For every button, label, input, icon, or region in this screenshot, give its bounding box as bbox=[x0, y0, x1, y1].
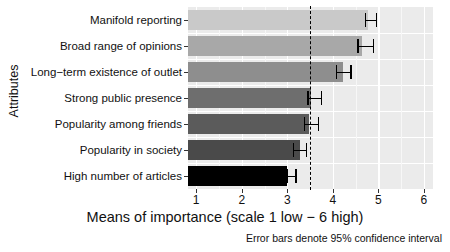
y-axis-label: Popularity in society bbox=[80, 137, 182, 163]
error-bar-cap bbox=[295, 169, 297, 183]
error-bar-cap bbox=[286, 169, 288, 183]
x-axis-tick-labels: 123456 bbox=[188, 193, 433, 209]
bar-chart: Attributes Manifold reportingBroad range… bbox=[0, 0, 450, 252]
error-bar-cap bbox=[365, 13, 367, 27]
bar bbox=[188, 88, 311, 108]
error-bar-cap bbox=[373, 39, 375, 53]
bar bbox=[188, 10, 368, 30]
plot-panel bbox=[188, 7, 433, 189]
x-axis-tick-label: 1 bbox=[184, 193, 208, 207]
chart-footnote: Error bars denote 95% confidence interva… bbox=[246, 232, 442, 244]
bar bbox=[188, 114, 309, 134]
x-axis-tick-label: 5 bbox=[366, 193, 390, 207]
reference-line bbox=[310, 6, 311, 190]
y-axis-category-labels: Manifold reportingBroad range of opinion… bbox=[18, 7, 182, 189]
error-bar-cap bbox=[376, 13, 378, 27]
bar bbox=[188, 140, 300, 160]
error-bar bbox=[357, 46, 374, 48]
y-axis-label: Strong public presence bbox=[64, 85, 182, 111]
bar bbox=[188, 166, 287, 186]
y-axis-label: Broad range of opinions bbox=[60, 33, 182, 59]
y-axis-label: Manifold reporting bbox=[90, 7, 182, 33]
error-bar-cap bbox=[318, 117, 320, 131]
x-axis-tick-label: 6 bbox=[412, 193, 436, 207]
error-bar-cap bbox=[357, 39, 359, 53]
error-bar-cap bbox=[293, 143, 295, 157]
x-axis-title: Means of importance (scale 1 low − 6 hig… bbox=[0, 209, 450, 225]
error-bar-cap bbox=[336, 65, 338, 79]
y-axis-label: Long−term existence of outlet bbox=[31, 59, 182, 85]
error-bar-cap bbox=[321, 91, 323, 105]
y-axis-label: Popularity among friends bbox=[55, 111, 182, 137]
x-axis-tick-label: 4 bbox=[321, 193, 345, 207]
bar bbox=[188, 62, 343, 82]
x-axis-tick-label: 2 bbox=[230, 193, 254, 207]
error-bar-cap bbox=[350, 65, 352, 79]
error-bar-cap bbox=[306, 143, 308, 157]
error-bar-cap bbox=[307, 91, 309, 105]
y-axis-label: High number of articles bbox=[64, 163, 182, 189]
bar bbox=[188, 36, 362, 56]
error-bar-cap bbox=[304, 117, 306, 131]
x-axis-tick-label: 3 bbox=[275, 193, 299, 207]
